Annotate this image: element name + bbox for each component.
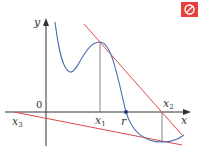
x3-label: x3: [12, 115, 23, 129]
x-axis-label: x: [181, 114, 188, 127]
origin-label: 0: [36, 99, 42, 110]
x1-label: x1: [95, 114, 106, 128]
y-axis-arrow-icon: [43, 18, 49, 26]
newton-method-diagram: y x 0 x1 x2 x3 r: [0, 0, 200, 155]
x2-label: x2: [163, 97, 174, 111]
root-label: r: [121, 115, 127, 128]
root-point: [124, 110, 128, 114]
y-axis-label: y: [33, 16, 41, 29]
prohibited-icon[interactable]: [181, 2, 198, 17]
